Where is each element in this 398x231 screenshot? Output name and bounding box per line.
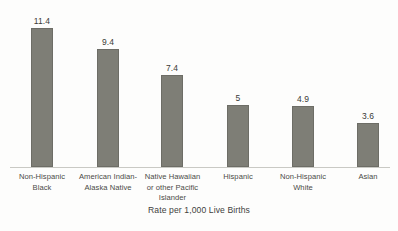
bar[interactable]: [31, 28, 53, 167]
bar-value-label: 5: [236, 93, 241, 103]
category-label-native-hawaiian-or-other-pacific-islander: Native Hawaiian or other Pacific Islande…: [135, 172, 210, 204]
category-label-line: Islander: [135, 193, 210, 204]
plot-area: 11.4 9.4 7.4 5 4.9 3.6: [0, 0, 398, 168]
category-label-line: Asian: [340, 172, 396, 183]
category-label-line: White: [266, 183, 340, 194]
category-labels: Non-Hispanic Black American Indian- Alas…: [0, 172, 398, 208]
bar-group: 3.6: [357, 0, 379, 168]
bar[interactable]: [292, 106, 314, 167]
category-label-line: Non-Hispanic: [266, 172, 340, 183]
bar-value-label: 9.4: [102, 37, 114, 47]
bar-value-label: 11.4: [34, 16, 50, 26]
bar-group: 5: [227, 0, 249, 168]
bar-chart: 11.4 9.4 7.4 5 4.9 3.6 Non-Hispanic Blac…: [0, 0, 398, 231]
bar-group: 4.9: [292, 0, 314, 168]
category-label-line: or other Pacific: [135, 183, 210, 194]
bar-value-label: 7.4: [166, 63, 178, 73]
bar[interactable]: [161, 75, 183, 167]
bar[interactable]: [357, 123, 379, 167]
bar-group: 9.4: [97, 0, 119, 168]
category-label-line: Hispanic: [208, 172, 268, 183]
bar[interactable]: [97, 49, 119, 167]
category-label-asian: Asian: [340, 172, 396, 183]
category-label-non-hispanic-white: Non-Hispanic White: [266, 172, 340, 193]
category-label-line: Native Hawaiian: [135, 172, 210, 183]
bar-group: 11.4: [31, 0, 53, 168]
bar-group: 7.4: [161, 0, 183, 168]
x-axis-title: Rate per 1,000 Live Births: [0, 205, 398, 215]
category-label-hispanic: Hispanic: [208, 172, 268, 183]
x-axis-line: [10, 167, 390, 168]
bar[interactable]: [227, 105, 249, 167]
bar-value-label: 3.6: [362, 111, 374, 121]
bar-value-label: 4.9: [297, 94, 309, 104]
